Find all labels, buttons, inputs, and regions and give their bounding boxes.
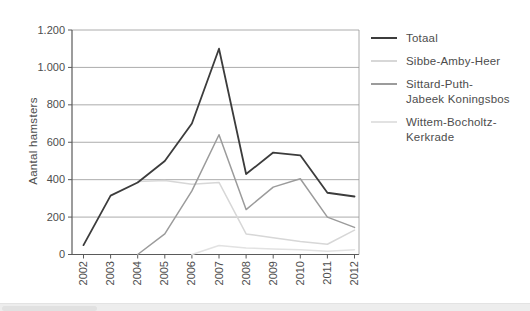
legend-line-swatch — [371, 83, 397, 85]
legend-item-2: Sittard-Puth-Jabeek Koningsbos — [371, 77, 526, 107]
x-tick-label: 2004 — [131, 261, 143, 285]
y-tick-label: 800 — [47, 98, 65, 110]
x-tick-label: 2003 — [104, 261, 116, 285]
legend-label-line: Jabeek Koningsbos — [406, 92, 510, 107]
x-tick-label: 2009 — [267, 261, 279, 285]
y-tick-label: 1.200 — [37, 24, 65, 36]
y-axis-title: Aantal hamsters — [27, 97, 39, 185]
legend-line-swatch — [371, 121, 397, 123]
y-tick-label: 1.000 — [37, 61, 65, 73]
x-tick-label: 2010 — [294, 261, 306, 285]
legend-label: Sittard-Puth-Jabeek Koningsbos — [406, 77, 510, 107]
chart-legend: TotaalSibbe-Amby-HeerSittard-Puth-Jabeek… — [371, 31, 526, 153]
legend-line-swatch — [371, 37, 397, 39]
y-tick-label: 0 — [59, 248, 65, 260]
legend-label-line: Totaal — [406, 31, 438, 46]
legend-label: Totaal — [406, 31, 438, 46]
legend-label: Wittem-Bocholtz-Kerkrade — [406, 115, 497, 145]
legend-line-swatch — [371, 60, 397, 62]
legend-label-line: Kerkrade — [406, 130, 497, 145]
y-tick-label: 400 — [47, 173, 65, 185]
x-tick-label: 2007 — [213, 261, 225, 285]
x-tick-label: 2002 — [77, 261, 89, 285]
legend-item-0: Totaal — [371, 31, 526, 46]
x-tick-label: 2008 — [240, 261, 252, 285]
series-line-3 — [192, 246, 355, 255]
x-tick-label: 2012 — [348, 261, 360, 285]
y-tick-label: 200 — [47, 211, 65, 223]
x-tick-label: 2006 — [185, 261, 197, 285]
y-tick-label: 600 — [47, 136, 65, 148]
legend-label-line: Wittem-Bocholtz- — [406, 115, 497, 130]
caption-text-fragment — [2, 306, 97, 311]
legend-label: Sibbe-Amby-Heer — [406, 54, 500, 69]
x-tick-label: 2011 — [321, 261, 333, 285]
legend-item-1: Sibbe-Amby-Heer — [371, 54, 526, 69]
series-line-1 — [138, 181, 355, 245]
legend-label-line: Sittard-Puth- — [406, 77, 510, 92]
x-tick-label: 2005 — [158, 261, 170, 285]
legend-item-3: Wittem-Bocholtz-Kerkrade — [371, 115, 526, 145]
series-line-0 — [84, 49, 355, 245]
legend-label-line: Sibbe-Amby-Heer — [406, 54, 500, 69]
hamster-population-chart: 02004006008001.0001.20020022003200420052… — [0, 0, 530, 311]
